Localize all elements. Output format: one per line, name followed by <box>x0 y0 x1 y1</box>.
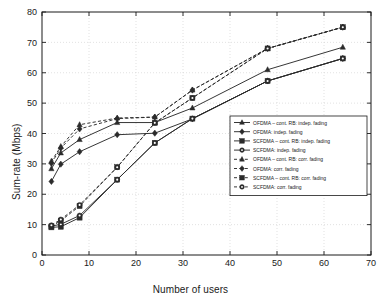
svg-text:60: 60 <box>319 258 329 268</box>
svg-text:0: 0 <box>32 250 37 260</box>
legend-label: OFDMA – cont. RB: corr. fading <box>253 156 323 162</box>
svg-text:50: 50 <box>27 98 37 108</box>
legend: OFDMA – cont. RB: indep. fadingOFDMA: in… <box>230 116 367 196</box>
svg-text:30: 30 <box>178 258 188 268</box>
svg-text:50: 50 <box>272 258 282 268</box>
svg-text:80: 80 <box>27 7 37 17</box>
svg-text:20: 20 <box>27 189 37 199</box>
legend-label: OFDMA – cont. RB: indep. fading <box>253 120 327 126</box>
svg-text:40: 40 <box>225 258 235 268</box>
chart-canvas: 01020304050607001020304050607080 OFDMA –… <box>0 0 381 299</box>
svg-text:20: 20 <box>131 258 141 268</box>
svg-text:0: 0 <box>39 258 44 268</box>
svg-text:70: 70 <box>366 258 376 268</box>
svg-text:10: 10 <box>84 258 94 268</box>
legend-label: SCFDMA: corr. fading <box>253 184 302 190</box>
y-axis-label: Sum-rate (Mbps) <box>11 123 22 200</box>
svg-text:60: 60 <box>27 68 37 78</box>
svg-text:30: 30 <box>27 159 37 169</box>
figure: 01020304050607001020304050607080 OFDMA –… <box>0 0 381 299</box>
legend-label: SCFDMA – cont. RB: corr. fading <box>253 175 326 181</box>
svg-text:40: 40 <box>27 129 37 139</box>
legend-label: OFDMA: corr. fading <box>253 166 299 172</box>
svg-text:10: 10 <box>27 220 37 230</box>
legend-label: SCFDMA – cont. RB: indep. fading <box>253 138 330 144</box>
legend-label: SCFDMA: indep. fading <box>253 147 306 153</box>
x-axis-label: Number of users <box>0 284 381 295</box>
svg-text:70: 70 <box>27 38 37 48</box>
legend-label: OFDMA: indep. fading <box>253 129 303 135</box>
